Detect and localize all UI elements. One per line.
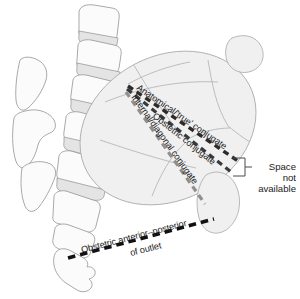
pelvic-conjugates-figure: Anatomical/'true' conjugate Obstetric co… [0, 0, 300, 299]
callout-label-line1: Space [269, 161, 296, 172]
callout-label-line3: available [258, 183, 296, 194]
diagram-canvas: Anatomical/'true' conjugate Obstetric co… [0, 0, 300, 299]
callout-label-line2: not [283, 172, 297, 183]
